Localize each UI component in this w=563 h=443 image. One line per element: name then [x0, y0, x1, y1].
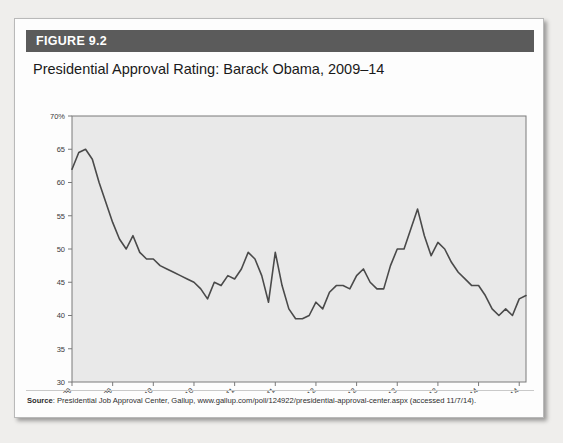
y-axis-tick-label: 35 [57, 345, 65, 354]
y-axis-tick-label: 30 [57, 378, 65, 387]
y-axis-tick-label: 55 [57, 212, 65, 221]
y-axis-tick-label: 65 [57, 145, 65, 154]
y-axis-tick-label: 45 [57, 278, 65, 287]
y-axis-tick-label: 50 [57, 245, 65, 254]
chart-plot-area: 303540455055606570%Feb 09Aug 09Feb 10Aug… [15, 81, 543, 393]
chart-title: Presidential Approval Rating: Barack Oba… [33, 61, 384, 77]
figure-card: FIGURE 9.2 Presidential Approval Rating:… [14, 18, 544, 418]
y-axis-tick-label: 60 [57, 178, 65, 187]
figure-number-bar: FIGURE 9.2 [26, 30, 534, 52]
y-axis-tick-label: 70% [50, 112, 65, 121]
source-divider [26, 390, 534, 391]
source-body: : Presidential Job Approval Center, Gall… [53, 396, 476, 405]
figure-number-label: FIGURE 9.2 [26, 34, 107, 48]
page-background: FIGURE 9.2 Presidential Approval Rating:… [0, 0, 563, 443]
source-note: Source: Presidential Job Approval Center… [27, 396, 535, 405]
source-label: Source [27, 396, 53, 405]
y-axis-tick-label: 40 [57, 311, 65, 320]
line-chart: 303540455055606570%Feb 09Aug 09Feb 10Aug… [15, 81, 543, 393]
plot-background [72, 116, 526, 382]
